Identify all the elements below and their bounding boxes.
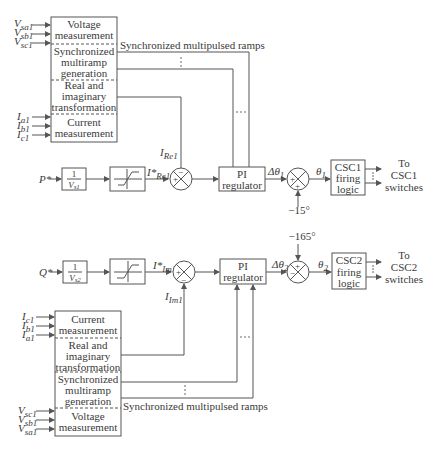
i-re1-feedback-label: IRe1 xyxy=(159,146,178,161)
svg-text:generation: generation xyxy=(65,395,112,407)
top-forward-path: P* 1 Vs1 I*Re1 IRe1 + − PI regulator Δθ1… xyxy=(38,146,423,216)
bottom-voltage-inputs: Vsc1 Vsb1 Vsa1 xyxy=(18,404,54,437)
bottom-measurement-block: Current measurement Real and imaginary t… xyxy=(55,311,121,436)
top-voltage-inputs: Vsa1 Vsb1 Vsc1 xyxy=(14,17,50,50)
svg-text:transformation: transformation xyxy=(52,101,117,113)
top-ramps-wiring: Synchronized multipulsed ramps xyxy=(117,39,265,187)
top-offset-label: −15° xyxy=(288,204,310,216)
svg-text:CSC2: CSC2 xyxy=(391,261,417,273)
svg-text:measurement: measurement xyxy=(59,324,118,336)
control-block-diagram: Voltage measurement Synchronized multira… xyxy=(0,0,437,455)
svg-text:1: 1 xyxy=(72,169,77,179)
svg-text:regulator: regulator xyxy=(223,271,263,283)
svg-text:+: + xyxy=(295,181,300,191)
q-star-label: Q* xyxy=(39,266,53,278)
bottom-offset-label: −165° xyxy=(288,230,315,242)
svg-text:switches: switches xyxy=(385,181,423,193)
svg-text:+: + xyxy=(295,261,300,271)
bottom-ramps-label: Synchronized multipulsed ramps xyxy=(123,400,268,412)
bottom-current-inputs: Ic1 Ib1 Ia1 xyxy=(21,310,54,343)
svg-text:measurement: measurement xyxy=(55,127,114,139)
top-current-inputs: Ia1 Ib1 Ic1 xyxy=(16,110,50,143)
bottom-ramps-wiring: Synchronized multipulsed ramps xyxy=(121,284,268,412)
svg-text:−: − xyxy=(181,275,186,285)
svg-text:measurement: measurement xyxy=(59,421,118,433)
svg-text:measurement: measurement xyxy=(55,29,114,41)
svg-text:logic: logic xyxy=(338,277,360,289)
delta-theta2-label: Δθ2 xyxy=(271,258,289,273)
svg-text:switches: switches xyxy=(385,273,423,285)
top-measurement-block: Voltage measurement Synchronized multira… xyxy=(51,17,117,142)
svg-text:transformation: transformation xyxy=(56,361,121,373)
svg-text:CSC1: CSC1 xyxy=(391,169,417,181)
svg-text:regulator: regulator xyxy=(222,179,262,191)
i-im1-feedback-label: IIm1 xyxy=(164,290,183,305)
delta-theta1-label: Δθ1 xyxy=(267,165,284,180)
p-star-label: P* xyxy=(38,173,52,185)
svg-text:logic: logic xyxy=(337,183,359,195)
theta1-label: θ1 xyxy=(316,165,326,180)
svg-text:CSC2: CSC2 xyxy=(336,254,362,266)
svg-text:−: − xyxy=(178,167,183,177)
svg-text:generation: generation xyxy=(61,67,108,79)
bottom-forward-path: Q* 1 Vs2 I*Im1 IIm1 + − PI regulator Δθ2… xyxy=(39,230,423,305)
svg-text:−: − xyxy=(290,268,295,278)
bottom-output-line1: To xyxy=(398,249,410,261)
top-output-line1: To xyxy=(398,157,410,169)
theta2-label: θ2 xyxy=(318,258,328,273)
top-ramps-label: Synchronized multipulsed ramps xyxy=(120,39,265,51)
svg-text:1: 1 xyxy=(73,262,78,272)
